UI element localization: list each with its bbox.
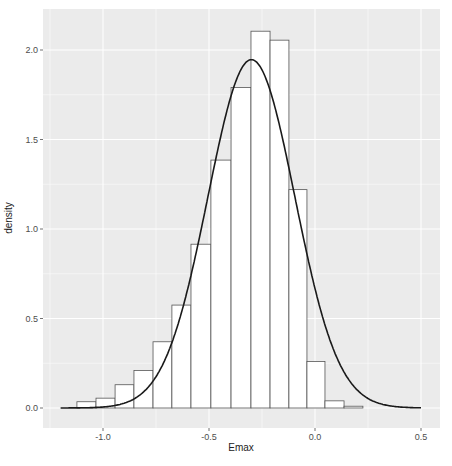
histogram-bar: [191, 244, 211, 408]
y-tick-label: 0.0: [25, 403, 38, 413]
y-tick-label: 1.5: [25, 135, 38, 145]
histogram-bar: [231, 88, 251, 408]
histogram-bar: [307, 361, 325, 408]
histogram-bar: [211, 160, 231, 408]
histogram-bar: [325, 401, 344, 408]
histogram-bar: [172, 305, 191, 408]
y-axis: 0.00.51.01.52.0: [25, 45, 43, 413]
x-tick-label: 0.5: [415, 432, 428, 442]
y-tick-label: 2.0: [25, 45, 38, 55]
x-tick-label: -0.5: [201, 432, 217, 442]
histogram-bar: [344, 406, 363, 408]
y-tick-label: 1.0: [25, 224, 38, 234]
x-tick-label: 0.0: [309, 432, 322, 442]
histogram-bar: [251, 31, 270, 408]
histogram-bar: [270, 40, 289, 408]
histogram-bar: [134, 370, 153, 408]
histogram-bar: [289, 190, 307, 408]
x-axis: -1.0-0.50.00.5: [95, 428, 427, 442]
y-tick-label: 0.5: [25, 314, 38, 324]
histogram-chart: -1.0-0.50.00.5 0.00.51.01.52.0 Emax dens…: [0, 0, 452, 466]
x-tick-label: -1.0: [95, 432, 111, 442]
y-axis-title: density: [3, 202, 14, 234]
x-axis-title: Emax: [228, 442, 254, 453]
